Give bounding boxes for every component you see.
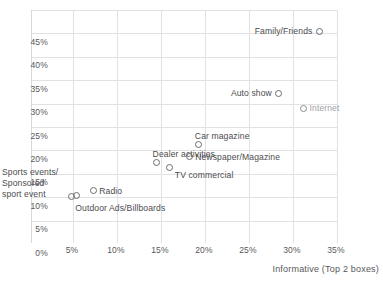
data-label-outdoor-ads-billboards: Outdoor Ads/Billboards bbox=[75, 203, 165, 213]
data-point-car-magazine[interactable] bbox=[195, 141, 202, 148]
gridline-x-20 bbox=[205, 10, 206, 243]
xtick-label-10: 10% bbox=[96, 246, 136, 255]
data-point-dealer-activities[interactable] bbox=[153, 159, 160, 166]
ytick-label-20: 20% bbox=[20, 155, 48, 164]
ytick-label-45: 45% bbox=[20, 38, 48, 47]
gridline-x-30 bbox=[293, 10, 294, 243]
x-axis-title: Informative (Top 2 boxes) bbox=[272, 264, 379, 274]
data-point-auto-show[interactable] bbox=[275, 90, 282, 97]
data-point-family-friends[interactable] bbox=[316, 28, 323, 35]
xtick-label-25: 25% bbox=[228, 246, 268, 255]
ytick-label-40: 40% bbox=[20, 61, 48, 70]
data-label-radio: Radio bbox=[99, 186, 122, 196]
ytick-label-5: 5% bbox=[20, 225, 48, 234]
ytick-label-25: 25% bbox=[20, 132, 48, 141]
gridline-x-25 bbox=[249, 10, 250, 243]
data-point-internet[interactable] bbox=[300, 105, 307, 112]
ytick-label-35: 35% bbox=[20, 85, 48, 94]
data-label-family-friends: Family/Friends bbox=[255, 26, 313, 36]
data-point-radio[interactable] bbox=[90, 187, 97, 194]
ytick-label-30: 30% bbox=[20, 108, 48, 117]
xtick-label-20: 20% bbox=[184, 246, 224, 255]
gridline-x-35 bbox=[337, 10, 338, 243]
xtick-label-35: 35% bbox=[316, 246, 356, 255]
xtick-label-5: 5% bbox=[52, 246, 92, 255]
data-point-outdoor-ads-billboards[interactable] bbox=[68, 193, 75, 200]
plot-area: Family/FriendsAuto showInternetCar magaz… bbox=[31, 10, 337, 243]
xtick-label-30: 30% bbox=[272, 246, 312, 255]
xtick-label-15: 15% bbox=[140, 246, 180, 255]
ytick-label-15: 15% bbox=[20, 178, 48, 187]
data-label-tv-commercial: TV commercial bbox=[175, 170, 234, 180]
data-label-auto-show: Auto show bbox=[231, 88, 272, 98]
data-label-car-magazine: Car magazine bbox=[195, 131, 250, 141]
data-label-internet: Internet bbox=[310, 103, 340, 113]
gridline-x-5 bbox=[73, 10, 74, 243]
data-point-tv-commercial[interactable] bbox=[166, 164, 173, 171]
ytick-label-0: 0% bbox=[20, 249, 48, 258]
scatter-chart: Family/FriendsAuto showInternetCar magaz… bbox=[0, 0, 383, 281]
ytick-label-10: 10% bbox=[20, 202, 48, 211]
data-label-dealer-activities: Dealer activities bbox=[153, 149, 215, 159]
